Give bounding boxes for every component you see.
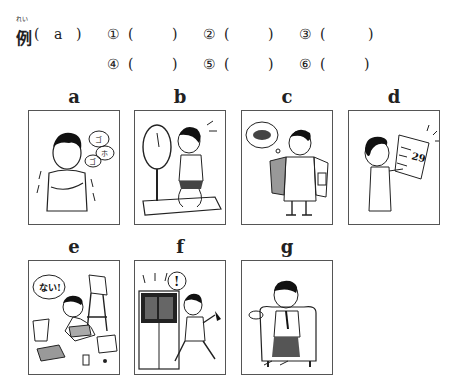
answer-1-close: ) (172, 26, 177, 42)
svg-text:ゴ: ゴ (95, 135, 102, 144)
picture-a-label: a (28, 86, 120, 107)
answer-5-close: ) (268, 56, 273, 72)
boy-reading-calendar-illustration: 29 (349, 111, 439, 224)
picture-d: 29 (348, 110, 440, 225)
answer-6-number: ⑥ (299, 56, 312, 72)
boy-on-scale-illustration (135, 111, 225, 224)
picture-d-label: d (348, 86, 440, 107)
svg-text:ゴ: ゴ (89, 157, 96, 166)
picture-f-label: f (134, 236, 226, 257)
answer-6-close: ) (364, 56, 369, 72)
answer-5-number: ⑤ (203, 56, 216, 72)
answer-3-number: ③ (299, 26, 312, 42)
picture-f: ! (134, 260, 226, 375)
example-open-paren: ( (34, 26, 39, 42)
answer-4-open: ( (128, 56, 133, 72)
picture-c-label: c (241, 86, 333, 107)
picture-g-label: g (241, 236, 333, 257)
answer-4-close: ) (172, 56, 177, 72)
picture-g (241, 260, 333, 375)
shivering-boy-illustration: ゴ ホ ゴ (29, 111, 119, 224)
answer-2-open: ( (224, 26, 229, 42)
answer-2-close: ) (268, 26, 273, 42)
answer-3-close: ) (368, 26, 373, 42)
tired-man-armchair-illustration (242, 261, 332, 374)
example-label: 例 (16, 25, 32, 49)
answer-1-open: ( (128, 26, 133, 42)
picture-c (241, 110, 333, 225)
picture-e: ない! (28, 260, 120, 375)
picture-a: ゴ ホ ゴ (28, 110, 120, 225)
answer-2-number: ② (203, 26, 216, 42)
answer-3-open: ( (320, 26, 325, 42)
answer-4-number: ④ (107, 56, 120, 72)
answer-1-number: ① (107, 26, 120, 42)
svg-text:ない!: ない! (39, 283, 61, 293)
answer-5-open: ( (224, 56, 229, 72)
rushing-to-elevator-illustration: ! (135, 261, 225, 374)
example-answer: a (54, 26, 62, 42)
example-close-paren: ) (76, 26, 81, 42)
svg-text:!: ! (174, 275, 179, 289)
picture-e-label: e (28, 236, 120, 257)
empty-pocket-illustration (242, 111, 332, 224)
picture-b (134, 110, 226, 225)
picture-b-label: b (134, 86, 226, 107)
example-ruby: れい (16, 16, 28, 22)
searching-messy-room-illustration: ない! (29, 261, 119, 374)
answer-6-open: ( (320, 56, 325, 72)
svg-text:ホ: ホ (101, 150, 108, 158)
